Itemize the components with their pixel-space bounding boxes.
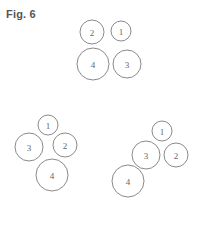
circle-number: 3: [125, 60, 130, 70]
circle-group-diagonal-arrangement: 1324: [112, 121, 188, 197]
numbered-circle-2: 2: [53, 133, 77, 157]
circle-number: 3: [27, 143, 32, 153]
numbered-circle-4: 4: [36, 159, 68, 191]
circle-number: 4: [91, 60, 96, 70]
circle-number: 1: [119, 27, 124, 37]
numbered-circle-1: 1: [38, 115, 58, 135]
numbered-circle-3: 3: [132, 141, 160, 169]
numbered-circle-1: 1: [111, 21, 131, 41]
circle-number: 2: [174, 151, 179, 161]
circle-number: 3: [144, 151, 149, 161]
numbered-circle-2: 2: [164, 143, 188, 167]
circle-number: 1: [160, 127, 165, 137]
numbered-circle-4: 4: [112, 165, 144, 197]
circle-number: 2: [63, 141, 68, 151]
circle-arrangement-diagram: 214313241324: [0, 0, 201, 228]
circle-number: 4: [126, 177, 131, 187]
numbered-circle-3: 3: [113, 50, 141, 78]
circle-number: 1: [46, 121, 51, 131]
circle-number: 2: [90, 28, 95, 38]
circle-group-diamond-arrangement: 1324: [15, 115, 77, 191]
numbered-circle-3: 3: [15, 133, 43, 161]
numbered-circle-2: 2: [80, 20, 104, 44]
circle-number: 4: [50, 171, 55, 181]
numbered-circle-4: 4: [77, 48, 109, 80]
circle-group-square-arrangement: 2143: [77, 20, 141, 80]
numbered-circle-1: 1: [152, 121, 172, 141]
